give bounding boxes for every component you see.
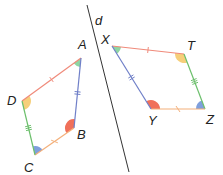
vertex-label-a: A [77, 37, 87, 52]
vertex-label-x: X [100, 32, 111, 47]
vertex-label-t: T [187, 38, 196, 53]
vertex-label-y: Y [148, 113, 158, 128]
vertex-label-z: Z [205, 112, 215, 127]
tick-mark-ab-1 [74, 94, 80, 95]
tick-mark-da-0 [50, 77, 54, 82]
tick-mark-cd-2 [25, 125, 31, 126]
polygon-sides [22, 46, 205, 155]
side-yx [112, 46, 151, 109]
tick-mark-cd-1 [26, 127, 32, 128]
side-ab [74, 58, 81, 128]
tick-mark-xt-0 [148, 47, 149, 53]
reflection-line-d [87, 5, 129, 172]
vertex-label-b: B [77, 127, 86, 142]
side-tick-marks [25, 47, 198, 143]
reflection-diagram: d A B C D X T Z Y [0, 0, 223, 175]
angle-markers [22, 46, 205, 155]
vertex-label-d: D [7, 93, 16, 108]
tick-mark-ab-0 [75, 92, 81, 93]
tick-mark-cd-0 [26, 129, 32, 130]
line-label-d: d [95, 13, 103, 28]
vertex-label-c: C [24, 160, 34, 175]
